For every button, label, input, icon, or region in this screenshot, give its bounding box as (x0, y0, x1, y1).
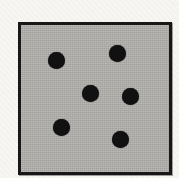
dot-5 (53, 119, 70, 136)
dot-2 (109, 45, 126, 62)
dot-1 (48, 52, 65, 69)
dot-4 (122, 88, 139, 105)
figure-canvas (0, 0, 179, 178)
dot-3 (82, 85, 99, 102)
dot-6 (112, 131, 129, 148)
